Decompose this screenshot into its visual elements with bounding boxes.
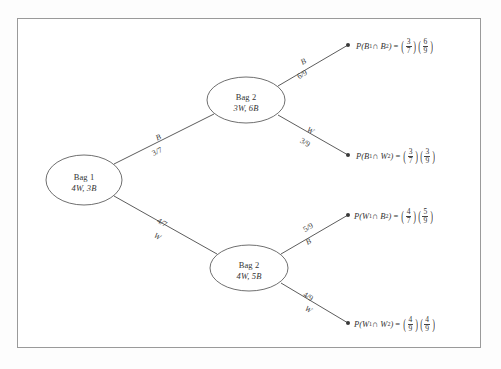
outcome-bb-f2-num: 6 [423, 38, 429, 46]
leaf-dot-ww [346, 321, 350, 325]
scanned-page-background: Bag 1 4W, 3B Bag 2 3W, 6B Bag 2 4W, 5B B… [0, 0, 501, 369]
edge-bag2-upper-to-bw [278, 115, 348, 155]
edge-bag2-upper-to-bb [278, 45, 348, 86]
outcome-ww-event-end: ) [390, 319, 393, 329]
outcome-bw-f2-num: 3 [424, 148, 430, 156]
paren-open-icon: ( [418, 209, 421, 224]
leaf-dot-bw [346, 153, 350, 157]
outcome-wb-event-mid: ∩ B [372, 211, 385, 221]
paren-open-icon: ( [403, 149, 406, 164]
outcome-bw-fraction-1: ( 3 7 ) [402, 148, 419, 164]
outcome-bb-event-mid: ∩ B [372, 41, 385, 51]
paren-open-icon: ( [401, 209, 404, 224]
node-label-bag1-name: Bag 1 [54, 172, 114, 183]
node-label-bag2-lower-name: Bag 2 [219, 260, 279, 271]
outcome-wb-f1-num: 4 [406, 208, 412, 216]
outcome-bb-event-end: ) [389, 41, 392, 51]
outcome-ww-f1-den: 9 [408, 324, 414, 333]
outcome-wb-f2-den: 9 [422, 216, 428, 225]
outcome-bw-equals: = [395, 151, 400, 161]
outcome-bb-event-base: P(B [356, 41, 369, 51]
outcome-wb-f2-num: 5 [422, 208, 428, 216]
node-label-bag1-contents: 4W, 3B [54, 183, 114, 194]
paren-close-icon: ) [415, 149, 418, 164]
paren-close-icon: ) [430, 39, 433, 54]
node-label-bag1: Bag 1 4W, 3B [54, 172, 114, 193]
paren-open-icon: ( [420, 317, 423, 332]
paren-close-icon: ) [432, 317, 435, 332]
node-label-bag2-lower: Bag 2 4W, 5B [219, 260, 279, 281]
outcome-bb-equals: = [394, 41, 399, 51]
outcome-wb-event-end: ) [389, 211, 392, 221]
paren-close-icon: ) [413, 209, 416, 224]
paren-open-icon: ( [420, 149, 423, 164]
outcome-ww-event-base: P(W [354, 319, 369, 329]
node-label-bag2-lower-contents: 4W, 5B [219, 271, 279, 282]
paren-close-icon: ) [430, 209, 433, 224]
outcome-ww-f2-den: 9 [424, 324, 430, 333]
outcome-bb-fraction-2: ( 6 9 ) [417, 38, 434, 54]
outcome-bb-f2-den: 9 [423, 46, 429, 55]
paren-open-icon: ( [403, 317, 406, 332]
paren-close-icon: ) [432, 149, 435, 164]
outcome-expression-wb: P(W1 ∩ B2) = ( 4 7 ) ( 5 9 ) [354, 208, 434, 224]
outcome-ww-f1-num: 4 [408, 316, 414, 324]
edge-bag1-to-bag2-upper [114, 114, 214, 164]
edge-bag2-lower-to-ww [281, 283, 348, 323]
node-label-bag2-upper-name: Bag 2 [216, 92, 276, 103]
paren-close-icon: ) [413, 39, 416, 54]
outcome-wb-event-base: P(W [354, 211, 369, 221]
outcome-ww-fraction-1: ( 4 9 ) [402, 316, 419, 332]
outcome-ww-equals: = [395, 319, 400, 329]
outcome-bb-fraction-1: ( 3 7 ) [400, 38, 417, 54]
outcome-expression-ww: P(W1 ∩ W2) = ( 4 9 ) ( 4 9 ) [354, 316, 436, 332]
leaf-dot-wb [346, 213, 350, 217]
outcome-ww-fraction-2: ( 4 9 ) [419, 316, 436, 332]
outcome-wb-f1-den: 7 [406, 216, 412, 225]
paren-close-icon: ) [415, 317, 418, 332]
outcome-ww-f2-num: 4 [424, 316, 430, 324]
paren-open-icon: ( [401, 39, 404, 54]
outcome-bw-event-base: P(B [356, 151, 369, 161]
outcome-wb-fraction-2: ( 5 9 ) [417, 208, 434, 224]
outcome-bw-f2-den: 9 [424, 156, 430, 165]
outcome-wb-fraction-1: ( 4 7 ) [400, 208, 417, 224]
outcome-bw-f1-den: 7 [408, 156, 414, 165]
node-label-bag2-upper: Bag 2 3W, 6B [216, 92, 276, 113]
outcome-bw-event-mid: ∩ W [372, 151, 387, 161]
node-label-bag2-upper-contents: 3W, 6B [216, 103, 276, 114]
outcome-expression-bb: P(B1 ∩ B2) = ( 3 7 ) ( 6 9 ) [356, 38, 434, 54]
outcome-expression-bw: P(B1 ∩ W2) = ( 3 7 ) ( 3 9 ) [356, 148, 436, 164]
outcome-bb-f1-den: 7 [406, 46, 412, 55]
outcome-bw-event-end: ) [391, 151, 394, 161]
outcome-bb-f1-num: 3 [406, 38, 412, 46]
paren-open-icon: ( [418, 39, 421, 54]
outcome-wb-equals: = [393, 211, 398, 221]
outcome-ww-event-mid: ∩ W [372, 319, 387, 329]
leaf-dot-bb [346, 43, 350, 47]
outcome-bw-fraction-2: ( 3 9 ) [419, 148, 436, 164]
edge-bag2-lower-to-wb [281, 215, 348, 254]
outcome-bw-f1-num: 3 [408, 148, 414, 156]
